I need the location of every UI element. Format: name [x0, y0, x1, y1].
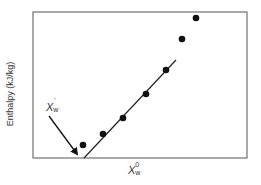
data-point [143, 91, 150, 98]
data-point [163, 67, 170, 74]
plot-frame [33, 12, 247, 158]
data-point [120, 115, 127, 122]
fit-line [84, 60, 176, 158]
data-point [80, 142, 87, 149]
annotation-arrow [49, 116, 77, 154]
data-point [179, 36, 186, 43]
annotation-label-sub: w [53, 106, 58, 113]
x-axis-label-sub: w [135, 169, 140, 176]
y-axis-label: Enthalpy (kJ/kg) [4, 88, 16, 100]
data-point [193, 15, 200, 22]
annotation-label: X'w [46, 101, 59, 113]
annotation-label-sup: ' [54, 97, 55, 104]
chart-canvas [0, 0, 261, 185]
y-axis-label-text: Enthalpy (kJ/kg) [5, 62, 15, 127]
x-axis-label: X0w [128, 164, 141, 176]
data-points [80, 15, 200, 149]
x-axis-label-sup: 0 [135, 161, 139, 168]
data-point [100, 131, 107, 138]
